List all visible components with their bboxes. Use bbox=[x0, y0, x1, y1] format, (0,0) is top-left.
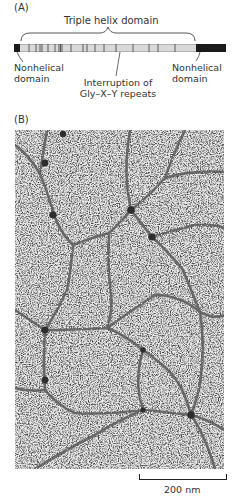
triple-helix-title: Triple helix domain bbox=[64, 15, 159, 26]
collagen-domain-bar bbox=[14, 44, 226, 52]
scale-bar-label: 200 nm bbox=[164, 484, 200, 495]
electron-micrograph bbox=[15, 130, 224, 469]
panel-b-label: (B) bbox=[14, 114, 29, 125]
left-nonhelical-label: Nonhelical domain bbox=[14, 62, 64, 84]
triple-helix-brace bbox=[18, 26, 198, 42]
interruption-label: Interruption of Gly–X–Y repeats bbox=[76, 77, 160, 99]
right-nonhelical-label: Nonhelical domain bbox=[172, 62, 222, 84]
panel-a-label: (A) bbox=[14, 2, 29, 13]
scale-bar bbox=[139, 474, 227, 482]
